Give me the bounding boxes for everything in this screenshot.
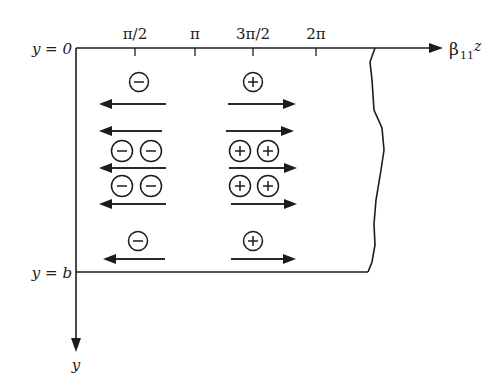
tick-label-pi-half: π/2 xyxy=(123,25,147,43)
break-line xyxy=(368,48,384,272)
arrow-right-icon xyxy=(231,199,297,209)
label-beta-z: β 11 z xyxy=(449,38,482,62)
plus-charge-icon xyxy=(258,176,279,197)
beta-symbol: β xyxy=(449,39,459,59)
field-diagram: π/2 π 3π/2 2π y = 0 y = b y β 11 z xyxy=(0,0,504,378)
minus-charge-icon xyxy=(130,73,149,92)
label-y-b: y = b xyxy=(31,264,72,282)
tick-label-2pi: 2π xyxy=(306,25,326,43)
y-axis-arrowhead xyxy=(71,338,81,352)
arrow-left-icon xyxy=(103,254,165,264)
arrow-right-icon xyxy=(226,126,294,136)
plus-charge-icon xyxy=(230,176,251,197)
minus-charge-icon xyxy=(112,141,133,162)
beta-subscript: 11 xyxy=(460,49,474,62)
plus-charge-icon xyxy=(230,141,251,162)
arrow-left-icon xyxy=(99,199,166,209)
arrow-left-icon xyxy=(99,99,166,109)
positive-region xyxy=(226,73,297,265)
tick-label-3pi-half: 3π/2 xyxy=(236,25,270,43)
label-y-zero: y = 0 xyxy=(31,40,73,58)
plus-charge-icon xyxy=(244,73,263,92)
minus-charge-icon xyxy=(141,141,162,162)
minus-charge-icon xyxy=(141,176,162,197)
arrow-right-icon xyxy=(229,163,297,173)
minus-charge-icon xyxy=(129,232,148,251)
arrow-right-icon xyxy=(228,99,296,109)
arrow-right-icon xyxy=(231,254,296,264)
negative-region xyxy=(99,73,166,265)
arrow-left-icon xyxy=(99,126,162,136)
z-variable: z xyxy=(473,38,482,54)
minus-charge-icon xyxy=(112,176,133,197)
z-axis-arrowhead xyxy=(429,43,443,53)
label-y-axis: y xyxy=(71,356,81,374)
tick-label-pi: π xyxy=(190,25,200,43)
plus-charge-icon xyxy=(244,232,263,251)
plus-charge-icon xyxy=(258,141,279,162)
arrow-left-icon xyxy=(99,163,166,173)
